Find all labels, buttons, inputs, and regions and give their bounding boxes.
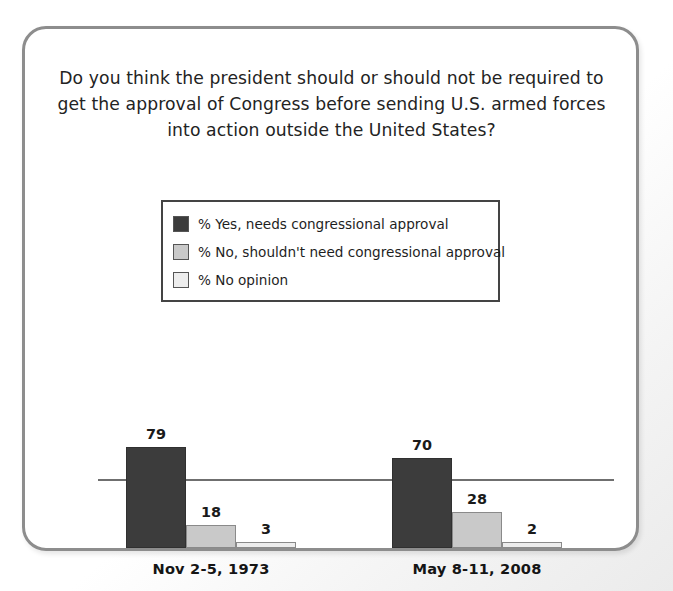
bar-column[interactable]: 3 — [236, 98, 296, 548]
bar[interactable] — [392, 458, 452, 548]
bar-column[interactable]: 79 — [126, 98, 186, 548]
bar-group: 70282May 8-11, 2008 — [392, 98, 562, 548]
bar-value-label: 70 — [392, 437, 452, 453]
bar-value-label: 28 — [452, 491, 502, 507]
bar[interactable] — [186, 525, 236, 548]
bar[interactable] — [502, 542, 562, 548]
bar-value-label: 3 — [236, 521, 296, 537]
bar-chart-plot: 79183Nov 2-5, 197370282May 8-11, 2008 — [25, 29, 636, 548]
bar[interactable] — [236, 542, 296, 548]
bar-column[interactable]: 18 — [186, 98, 236, 548]
x-axis-category-label: Nov 2-5, 1973 — [126, 560, 296, 577]
bar[interactable] — [126, 447, 186, 548]
bar-value-label: 2 — [502, 521, 562, 537]
poll-result-card: Do you think the president should or sho… — [22, 26, 639, 551]
bar-group-bars: 70282 — [392, 98, 562, 548]
bar-group-bars: 79183 — [126, 98, 296, 548]
x-axis-category-label: May 8-11, 2008 — [392, 560, 562, 577]
bar-value-label: 18 — [186, 504, 236, 520]
bar[interactable] — [452, 512, 502, 548]
bar-column[interactable]: 28 — [452, 98, 502, 548]
bar-column[interactable]: 70 — [392, 98, 452, 548]
bar-group: 79183Nov 2-5, 1973 — [126, 98, 296, 548]
bar-column[interactable]: 2 — [502, 98, 562, 548]
bar-value-label: 79 — [126, 426, 186, 442]
